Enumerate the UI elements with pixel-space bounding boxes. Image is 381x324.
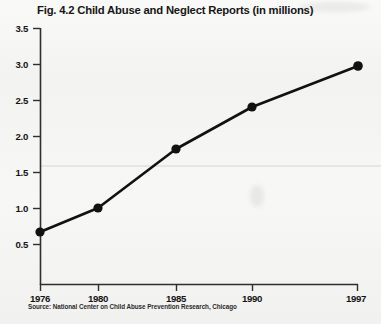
source-note: Source: National Center on Child Abuse P… (28, 303, 237, 310)
data-point-1980 (93, 203, 102, 212)
y-axis-label-3.5: 3.5 (2, 23, 28, 34)
chart-figure: Fig. 4.2 Child Abuse and Neglect Reports… (0, 0, 381, 324)
data-point-1976 (35, 227, 44, 236)
y-axis-label-2.5: 2.5 (2, 95, 28, 106)
y-axis-label-2.0: 2.0 (2, 131, 28, 142)
x-axis-label-1997: 1997 (333, 293, 379, 304)
y-axis-label-0.5: 0.5 (2, 239, 28, 250)
plot-area (0, 0, 381, 324)
data-line (40, 66, 358, 232)
y-axis-label-3.0: 3.0 (2, 59, 28, 70)
data-point-1997 (353, 61, 363, 71)
y-axis-label-1.0: 1.0 (2, 203, 28, 214)
data-point-1990 (247, 102, 256, 111)
data-point-1985 (171, 144, 180, 153)
y-axis-label-1.5: 1.5 (2, 167, 28, 178)
